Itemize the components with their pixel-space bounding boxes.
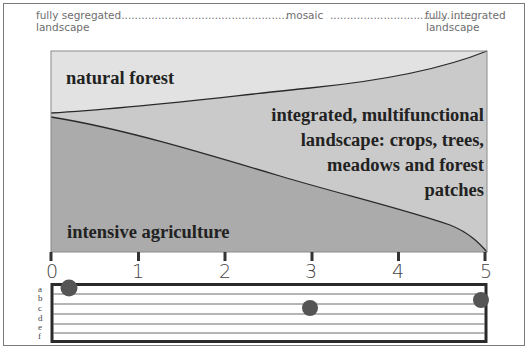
scale-row-label: b <box>38 294 43 303</box>
axis-tick-label: 4 <box>392 260 404 282</box>
scale-row-label: f <box>38 332 41 341</box>
intensive-agriculture-label: intensive agriculture <box>67 221 230 243</box>
axis-tick-label: 0 <box>46 260 58 282</box>
natural-forest-label: natural forest <box>66 67 174 89</box>
scale-box <box>52 280 489 342</box>
scale-point-integrated <box>473 292 489 308</box>
scale-point-segregated <box>61 280 78 297</box>
axis-tick-label: 2 <box>219 260 231 282</box>
axis-tick-label: 5 <box>480 260 492 282</box>
scale-point-mosaic <box>302 300 318 316</box>
axis-ticks <box>51 252 485 261</box>
axis-tick-label: 3 <box>305 260 317 282</box>
integrated-landscape-label: integrated, multifunctional landscape: c… <box>271 103 484 203</box>
axis-tick-label: 1 <box>132 260 144 282</box>
scale-row-label: c <box>38 304 42 313</box>
